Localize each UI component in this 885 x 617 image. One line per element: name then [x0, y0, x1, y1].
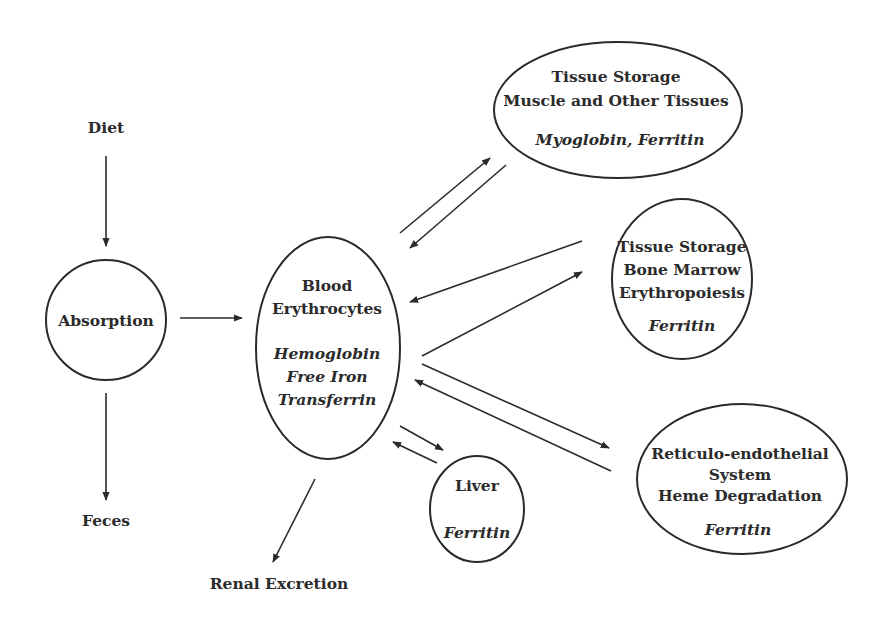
arrow-blood-to-liver — [400, 426, 443, 450]
muscle-ellipse — [494, 42, 742, 178]
arrow-blood-to-renal — [273, 479, 315, 562]
arrow-muscle-to-blood — [410, 165, 506, 248]
liver-italic-1: Ferritin — [443, 523, 511, 542]
muscle-line-2: Muscle and Other Tissues — [503, 91, 729, 110]
marrow-italic-1: Ferritin — [648, 316, 716, 335]
blood-italic-2: Free Iron — [285, 367, 367, 386]
node-tissue-storage-bone-marrow: Tissue Storage Bone Marrow Erythropoiesi… — [612, 199, 752, 359]
node-absorption: Absorption — [46, 260, 166, 380]
arrow-blood-to-marrow — [422, 272, 582, 356]
liver-ellipse — [430, 456, 524, 562]
blood-italic-1: Hemoglobin — [273, 344, 380, 363]
res-line-3: Heme Degradation — [658, 486, 822, 505]
arrow-res-to-blood — [415, 380, 611, 471]
blood-line-1: Blood — [302, 276, 353, 295]
arrow-liver-to-blood — [393, 442, 437, 463]
marrow-ellipse — [612, 199, 752, 359]
absorption-label: Absorption — [57, 311, 154, 330]
iron-metabolism-diagram: Diet Absorption Feces Blood Erythrocytes… — [0, 0, 885, 617]
node-reticulo-endothelial-system: Reticulo-endothelial System Heme Degrada… — [637, 404, 847, 554]
arrow-blood-to-res — [422, 364, 609, 448]
node-feces: Feces — [82, 511, 130, 530]
marrow-line-3: Erythropoiesis — [619, 283, 745, 302]
arrow-blood-to-muscle — [400, 158, 490, 233]
marrow-line-2: Bone Marrow — [623, 260, 741, 279]
node-renal-excretion: Renal Excretion — [210, 574, 349, 593]
arrow-marrow-to-blood — [410, 241, 582, 302]
node-liver: Liver Ferritin — [430, 456, 524, 562]
res-line-2: System — [709, 465, 772, 484]
blood-line-2: Erythrocytes — [272, 299, 382, 318]
muscle-line-1: Tissue Storage — [551, 67, 680, 86]
node-blood: Blood Erythrocytes Hemoglobin Free Iron … — [256, 237, 400, 459]
marrow-line-1: Tissue Storage — [617, 237, 746, 256]
blood-italic-3: Transferrin — [278, 390, 377, 409]
liver-line-1: Liver — [455, 476, 500, 495]
node-diet: Diet — [88, 118, 125, 137]
res-italic-1: Ferritin — [704, 520, 772, 539]
node-tissue-storage-muscle: Tissue Storage Muscle and Other Tissues … — [494, 42, 742, 178]
res-line-1: Reticulo-endothelial — [651, 444, 829, 463]
muscle-italic-1: Myoglobin, Ferritin — [535, 130, 705, 149]
